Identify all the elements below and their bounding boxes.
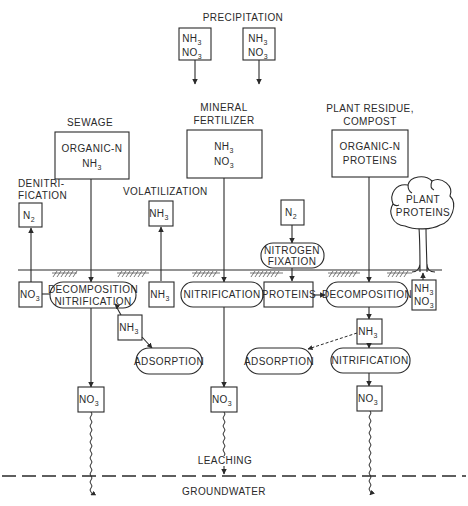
mineral-fertilizer-box: NH3 NO3 (187, 130, 262, 178)
volatilization-label: VOLATILIZATION (123, 186, 208, 197)
precipitation-label: PRECIPITATION (203, 12, 283, 23)
plant-residue-label-1: PLANT RESIDUE, (326, 103, 414, 114)
mineral-fertilizer-label-1: MINERAL (200, 102, 247, 113)
nh3-to-adsorption-dashed-arrow (308, 333, 357, 349)
leaching-wavy-left (90, 412, 92, 495)
groundwater-label: GROUNDWATER (182, 486, 266, 497)
svg-text:PROTEINS: PROTEINS (262, 289, 316, 300)
proteins-box: PROTEINS (262, 282, 316, 307)
volatilization-nh3-box: NH3 (149, 201, 173, 226)
leach-no3-right-box: NO3 (357, 386, 382, 411)
nitrification-right-pill: NITRIFICATION (331, 348, 410, 373)
soil-nh3-mid-box: NH3 (149, 282, 174, 307)
svg-text:NITRIFICATION: NITRIFICATION (331, 355, 408, 366)
svg-text:ORGANIC-N: ORGANIC-N (62, 143, 123, 154)
leaching-wavy-right (369, 411, 371, 495)
svg-text:NITROGEN: NITROGEN (264, 245, 320, 256)
svg-text:ADSORPTION: ADSORPTION (244, 356, 314, 367)
svg-text:PROTEINS: PROTEINS (396, 207, 450, 218)
nitrogen-cycle-diagram: PRECIPITATION NH3 NO3 NH3 NO3 SEWAGE ORG… (0, 0, 468, 506)
soil-hatching (52, 271, 412, 277)
fixation-n2-box: N2 (281, 200, 304, 225)
soil-no3-left-box: NO3 (19, 282, 42, 307)
soil-nh3-no3-right-box: NH3 NO3 (412, 280, 436, 310)
denitrification-label-2: FICATION (18, 190, 67, 201)
decomposition-right-pill: DECOMPOSITION (322, 282, 412, 307)
nitrogen-fixation-pill: NITROGEN FIXATION (261, 243, 324, 268)
precipitation-box-1: NH3 NO3 (179, 28, 211, 60)
denitrification-label-1: DENITRI- (18, 178, 65, 189)
adsorption-right-pill: ADSORPTION (244, 348, 314, 374)
svg-text:PROTEINS: PROTEINS (343, 155, 397, 166)
svg-text:FIXATION: FIXATION (268, 256, 317, 267)
nitrification-center-pill: NITRIFICATION (181, 282, 263, 307)
svg-text:NITRIFICATION: NITRIFICATION (183, 289, 260, 300)
leach-no3-center-box: NO3 (211, 387, 237, 412)
leach-no3-left-box: NO3 (78, 387, 104, 412)
leaching-wavy-center (223, 412, 225, 456)
decomposition-nitrification-pill: DECOMPOSITION NITRIFICATION (48, 282, 138, 308)
mineral-fertilizer-label-2: FERTILIZER (193, 115, 254, 126)
plant-proteins-tree: PLANT PROTEINS (391, 177, 454, 272)
adsorption-left-pill: ADSORPTION (134, 348, 204, 374)
leaching-label: LEACHING (198, 455, 252, 466)
sewage-label: SEWAGE (67, 117, 113, 128)
plant-residue-label-2: COMPOST (343, 116, 396, 127)
svg-text:PLANT: PLANT (406, 194, 440, 205)
svg-text:DECOMPOSITION: DECOMPOSITION (48, 284, 138, 295)
denitrification-n2-box: N2 (19, 203, 42, 227)
svg-text:DECOMPOSITION: DECOMPOSITION (322, 289, 412, 300)
plant-residue-box: ORGANIC-N PROTEINS (332, 130, 408, 177)
right-nh3-below-box: NH3 (357, 319, 382, 344)
svg-text:ORGANIC-N: ORGANIC-N (340, 141, 401, 152)
sewage-nh3-below-box: NH3 (118, 315, 142, 340)
svg-text:ADSORPTION: ADSORPTION (134, 356, 204, 367)
sewage-box: ORGANIC-N NH3 (55, 132, 129, 179)
svg-text:NITRIFICATION: NITRIFICATION (54, 296, 131, 307)
precipitation-box-2: NH3 NO3 (243, 28, 275, 60)
